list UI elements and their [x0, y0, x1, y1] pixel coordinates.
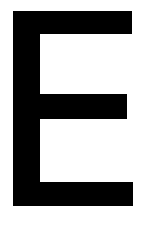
- letter-e-label: E: [0, 0, 1, 1]
- letter-e-bottom-bar: [13, 182, 133, 206]
- letter-e-glyph: E: [0, 0, 152, 227]
- letter-e-top-bar: [13, 11, 132, 34]
- letter-e-middle-bar: [13, 94, 127, 119]
